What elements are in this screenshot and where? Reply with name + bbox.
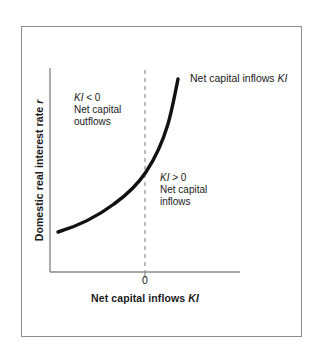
y-axis-label-symbol: r xyxy=(33,100,45,104)
curve-label-symbol: KI xyxy=(278,72,288,84)
curve-label-text: Net capital inflows xyxy=(190,72,278,84)
annotation-right-condition: > 0 xyxy=(169,172,186,183)
x-axis-label-text: Net capital inflows xyxy=(91,292,188,304)
y-axis-label-text: Domestic real interest rate xyxy=(33,104,45,242)
annotation-left-region: KI < 0Net capitaloutflows xyxy=(74,92,121,129)
y-axis-label: Domestic real interest rate r xyxy=(33,70,46,270)
annotation-right-region: KI > 0Net capitalinflows xyxy=(160,172,207,209)
annotation-left-line3: outflows xyxy=(74,116,111,127)
annotation-left-condition: < 0 xyxy=(83,92,100,103)
annotation-left-line2: Net capital xyxy=(74,104,121,115)
x-axis-label-symbol: KI xyxy=(188,292,199,304)
x-axis-tick-label-zero: 0 xyxy=(135,274,155,287)
x-axis-label: Net capital inflows KI xyxy=(50,292,240,305)
annotation-right-line3: inflows xyxy=(160,196,191,207)
curve-label: Net capital inflows KI xyxy=(190,72,287,85)
chart-figure: Domestic real interest rate r Net capita… xyxy=(0,0,323,358)
annotation-right-line2: Net capital xyxy=(160,184,207,195)
